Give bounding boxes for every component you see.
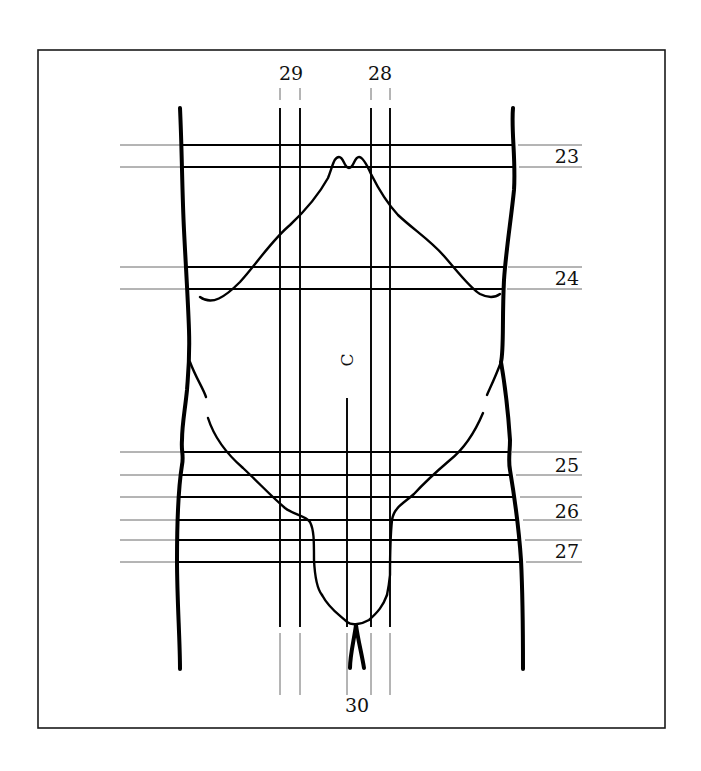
pubic-contour — [322, 595, 387, 624]
region-label: 26 — [555, 500, 579, 522]
region-label: 29 — [279, 62, 303, 84]
right-torso-outline — [501, 108, 523, 669]
region-label: 27 — [555, 540, 579, 562]
left-flank-lower-contour — [208, 418, 322, 595]
navel-marker: C — [337, 353, 357, 366]
region-labels: 2928232425262730 — [279, 62, 579, 716]
region-label: 24 — [555, 267, 579, 289]
right-flank-upper-contour — [487, 362, 501, 395]
region-label: 30 — [345, 694, 369, 716]
rib-cage-contour — [200, 157, 500, 301]
left-torso-outline — [177, 108, 189, 669]
genital-right-stroke — [356, 625, 364, 668]
abdominal-regions-diagram: C 2928232425262730 — [0, 0, 701, 771]
torso-contours — [177, 108, 523, 669]
region-label: 25 — [555, 454, 579, 476]
region-label: 28 — [368, 62, 392, 84]
left-flank-upper-contour — [190, 362, 206, 397]
region-label: 23 — [555, 145, 579, 167]
right-flank-lower-contour — [387, 413, 483, 595]
